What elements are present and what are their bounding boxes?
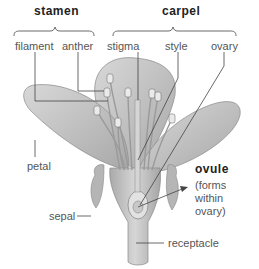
- anther-label: anther: [62, 40, 93, 52]
- receptacle-label: receptacle: [168, 237, 219, 249]
- ovary-label: ovary: [211, 40, 238, 52]
- flower-diagram: stamen carpel filament anther stigma sty…: [0, 0, 259, 269]
- ovule-note-line-3: ovary): [195, 205, 226, 218]
- ovule-heading: ovule: [195, 162, 229, 176]
- stamen-heading: stamen: [34, 4, 79, 18]
- style-label: style: [165, 40, 188, 52]
- stigma-label: stigma: [107, 40, 139, 52]
- carpel-brace: [113, 27, 236, 36]
- carpel-heading: carpel: [162, 4, 200, 18]
- ovule-arrowhead: [180, 186, 188, 192]
- filament-label: filament: [15, 40, 54, 52]
- stamen-brace: [14, 27, 94, 36]
- petal-label: petal: [27, 160, 51, 172]
- ovule-note-line-2: within: [195, 192, 223, 205]
- sepal-right: [166, 165, 178, 210]
- sepal-label: sepal: [49, 210, 75, 222]
- ovule-note-line-1: (forms: [195, 179, 226, 192]
- sepal-left: [91, 165, 104, 208]
